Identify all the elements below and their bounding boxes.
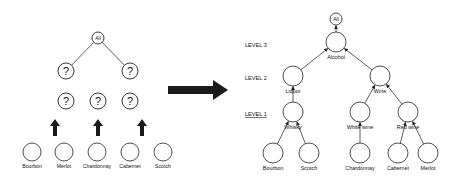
node-wine: Wine xyxy=(370,66,390,94)
node-liquor: Liquor xyxy=(283,66,303,94)
leaf-label: Merlot xyxy=(57,163,72,169)
question-mark-label: ? xyxy=(95,95,101,107)
hierarchy-edge xyxy=(301,49,328,70)
unknown-node: ? xyxy=(58,63,74,79)
up-arrow-icon xyxy=(50,119,60,136)
node-label: Chardonnay xyxy=(345,165,375,171)
tree-edge xyxy=(72,42,94,65)
node-whisky: Whisky xyxy=(283,102,303,130)
question-mark-label: ? xyxy=(127,95,133,107)
hierarchy-diagram: All?????BourbonMerlotChardonnayCabernetS… xyxy=(0,0,459,180)
tree-edge xyxy=(102,42,124,65)
node-merlot: Merlot xyxy=(418,143,438,171)
node-red-wine: Red wine xyxy=(397,102,419,130)
leaf-node: Cabernet xyxy=(119,143,141,169)
leaf-label: Bourbon xyxy=(22,163,42,169)
question-mark-label: ? xyxy=(63,95,69,107)
node-scotch: Scotch xyxy=(299,143,319,171)
node-cabernet: Cabernet xyxy=(387,143,410,171)
node-all: All xyxy=(330,13,342,25)
right-tree-concept-hierarchy: LEVEL 3LEVEL 2LEVEL 1AllAlcoholLiquorWin… xyxy=(245,13,438,171)
node-chardonnay: Chardonnay xyxy=(345,143,375,171)
leaf-node: Chardonnay xyxy=(83,143,112,169)
node-label: All xyxy=(95,35,101,41)
leaf-label: Cabernet xyxy=(119,163,141,169)
hierarchy-edge xyxy=(344,48,372,69)
node-label: Cabernet xyxy=(387,165,410,171)
up-arrow-icon xyxy=(93,119,103,136)
node-label: Whisky xyxy=(284,124,302,130)
left-tree-unknown-hierarchy: All?????BourbonMerlotChardonnayCabernetS… xyxy=(22,32,172,169)
up-arrow-icon xyxy=(137,119,147,136)
node-label: White wine xyxy=(347,124,373,130)
transform-arrow-icon xyxy=(168,80,228,100)
unknown-node: ? xyxy=(122,63,138,79)
leaf-node: Merlot xyxy=(55,143,73,169)
node-label: Merlot xyxy=(421,165,436,171)
unknown-node: ? xyxy=(90,93,106,109)
level-label: LEVEL 2 xyxy=(245,75,267,81)
level-label: LEVEL 1 xyxy=(245,111,267,117)
node-bourbon: Bourbon xyxy=(263,143,283,171)
node-label: Scotch xyxy=(301,165,317,171)
node-all: All xyxy=(92,32,104,44)
leaf-node: Bourbon xyxy=(22,143,42,169)
node-label: Alcohol xyxy=(327,54,345,60)
node-label: Wine xyxy=(374,88,386,94)
level-label: LEVEL 3 xyxy=(245,42,267,48)
hierarchy-edge xyxy=(386,84,401,104)
node-alcohol: Alcohol xyxy=(326,32,346,60)
leaf-label: Scotch xyxy=(155,163,171,169)
leaf-label: Chardonnay xyxy=(83,163,112,169)
leaf-node: Scotch xyxy=(154,143,172,169)
node-label: Bourbon xyxy=(263,165,283,171)
question-mark-label: ? xyxy=(127,65,133,77)
node-white-wine: White wine xyxy=(347,102,373,130)
node-label: All xyxy=(333,16,339,22)
node-label: Liquor xyxy=(286,88,301,94)
unknown-node: ? xyxy=(122,93,138,109)
node-label: Red wine xyxy=(397,124,419,130)
unknown-node: ? xyxy=(58,93,74,109)
question-mark-label: ? xyxy=(63,65,69,77)
